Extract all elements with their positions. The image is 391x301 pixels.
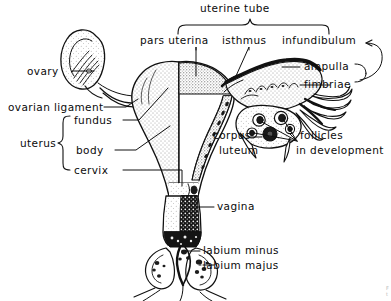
- vagina-structure: [163, 196, 201, 247]
- ovary-left-structure: [61, 30, 105, 98]
- label-uterine-tube: uterine tube: [200, 2, 270, 14]
- corner-caption-fragment: F t: [386, 285, 389, 297]
- label-fundus: fundus: [74, 114, 112, 126]
- label-follicles-line1: follicles: [300, 129, 343, 141]
- label-follicles-line2: in development: [296, 144, 384, 156]
- label-vagina: vagina: [217, 200, 255, 212]
- label-ovary: ovary: [27, 65, 59, 77]
- label-fimbriae: fimbriae: [304, 78, 351, 90]
- label-body: body: [76, 144, 104, 156]
- label-ampulla: ampulla: [304, 60, 349, 72]
- uterine-tube-brace: [178, 19, 329, 34]
- label-corpus-luteum-line2: luteum: [219, 144, 258, 156]
- label-uterus: uterus: [20, 137, 56, 149]
- label-infundibulum: infundibulum: [282, 34, 356, 46]
- uterus-brace: [58, 116, 70, 170]
- label-corpus-luteum-line1: corpus: [213, 129, 251, 141]
- label-cervix: cervix: [74, 164, 108, 176]
- label-ovarian-ligament: ovarian ligament: [8, 101, 104, 113]
- uterine-tube-left-structure: [98, 83, 136, 107]
- label-labium-minus: labium minus: [203, 244, 279, 256]
- label-labium-majus: labium majus: [203, 259, 279, 271]
- label-pars-uterina: pars uterina: [140, 34, 209, 46]
- label-isthmus: isthmus: [222, 34, 266, 46]
- anatomy-figure: uterine tube pars uterina isthmus infund…: [0, 0, 391, 301]
